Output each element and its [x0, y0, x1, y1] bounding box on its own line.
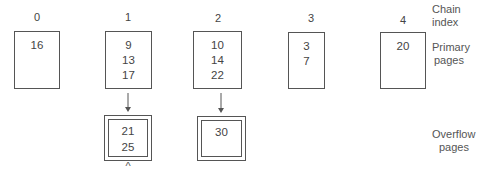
- label-primary-pages: Primary pages: [432, 41, 470, 67]
- label-line: Chain: [432, 3, 461, 16]
- label-overflow-pages: Overflow pages: [432, 128, 475, 154]
- label-line: index: [432, 16, 461, 29]
- label-line: pages: [432, 141, 475, 154]
- key-value: 30: [198, 124, 245, 140]
- overflow-page-1: 21 25: [104, 115, 152, 161]
- overflow-page-2-values: 30: [198, 124, 245, 140]
- arrow-chain-2: [218, 93, 224, 113]
- overflow-page-1-values: 21 25: [105, 123, 151, 155]
- caret-marker-icon: ^: [120, 160, 136, 171]
- key-value: 21: [105, 123, 151, 139]
- label-line: Overflow: [432, 128, 475, 141]
- label-line: pages: [432, 54, 470, 67]
- label-chain-index: Chain index: [432, 3, 461, 29]
- label-line: Primary: [432, 41, 470, 54]
- arrow-chain-1: [125, 93, 131, 112]
- key-value: 25: [105, 139, 151, 155]
- overflow-page-2: 30: [197, 116, 246, 161]
